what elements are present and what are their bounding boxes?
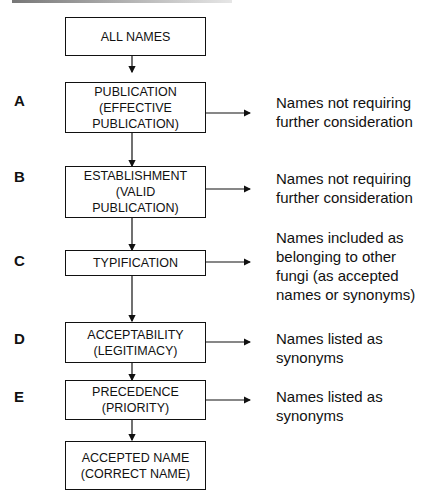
note-b: Names not requiring further consideratio… xyxy=(276,169,413,207)
box-label: PRECEDENCE (PRIORITY) xyxy=(92,384,179,416)
box-precedence: PRECEDENCE (PRIORITY) xyxy=(65,380,206,420)
box-accepted-name: ACCEPTED NAME (CORRECT NAME) xyxy=(65,441,206,490)
box-label: TYPIFICATION xyxy=(93,255,178,271)
step-letter-b: B xyxy=(14,168,25,185)
box-acceptability: ACCEPTABILITY (LEGITIMACY) xyxy=(65,322,206,363)
box-establishment: ESTABLISHMENT (VALID PUBLICATION) xyxy=(65,166,206,218)
box-label: ALL NAMES xyxy=(101,29,171,45)
box-label: ESTABLISHMENT (VALID PUBLICATION) xyxy=(84,168,187,216)
step-letter-e: E xyxy=(14,388,24,405)
step-letter-d: D xyxy=(14,330,25,347)
box-publication: PUBLICATION (EFFECTIVE PUBLICATION) xyxy=(65,82,206,133)
note-a: Names not requiring further consideratio… xyxy=(276,93,413,131)
note-d: Names listed as synonyms xyxy=(276,329,383,367)
box-all-names: ALL NAMES xyxy=(65,17,206,56)
box-label: ACCEPTABILITY (LEGITIMACY) xyxy=(87,327,183,359)
box-label: PUBLICATION (EFFECTIVE PUBLICATION) xyxy=(92,84,179,132)
note-c: Names included as belonging to other fun… xyxy=(276,228,415,304)
note-e: Names listed as synonyms xyxy=(276,387,383,425)
box-typification: TYPIFICATION xyxy=(65,250,206,276)
step-letter-a: A xyxy=(14,92,25,109)
box-label: ACCEPTED NAME (CORRECT NAME) xyxy=(81,450,191,482)
step-letter-c: C xyxy=(14,252,25,269)
